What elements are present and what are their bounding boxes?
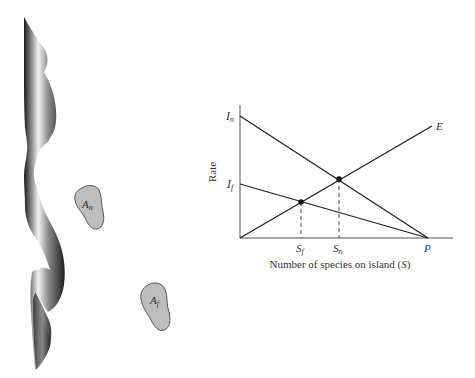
e-label: E [435, 120, 443, 132]
immigration-line-near [240, 116, 428, 238]
near-island: An [75, 186, 104, 230]
in-label: In [225, 109, 234, 124]
y-axis-label: Rate [206, 162, 218, 182]
equilibrium-graph: In If Rate E Sf Sn P Number of species o… [206, 105, 453, 271]
sn-label: Sn [333, 242, 343, 256]
sf-label: Sf [296, 242, 306, 256]
far-island: Af [141, 283, 170, 330]
equilibrium-point-near [336, 176, 342, 182]
mainland-coast [24, 17, 65, 370]
p-label: P [423, 242, 431, 254]
island-biogeography-figure: An Af In If Rate E [0, 0, 475, 378]
if-label: If [226, 177, 235, 192]
x-axis-label: Number of species on island (S) [270, 258, 411, 271]
immigration-line-far [240, 184, 428, 238]
equilibrium-point-far [298, 199, 304, 205]
